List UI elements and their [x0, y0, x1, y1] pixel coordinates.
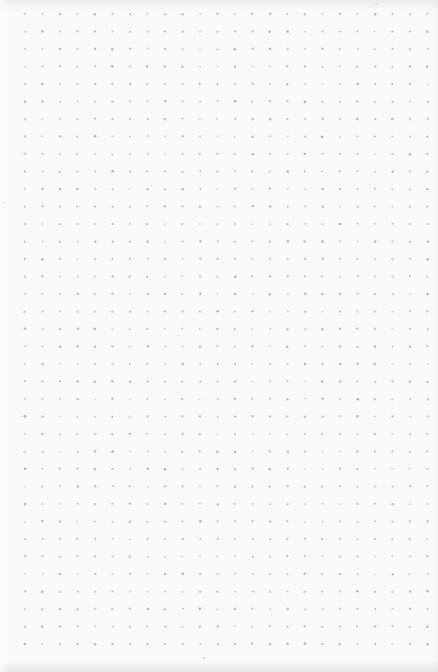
- grid-dot: [234, 538, 236, 540]
- grid-dot: [216, 328, 218, 330]
- grid-dot: [356, 486, 358, 488]
- grid-dot: [251, 415, 253, 417]
- grid-dot: [112, 206, 114, 208]
- grid-dot: [426, 433, 428, 435]
- grid-dot: [392, 573, 394, 575]
- grid-dot: [357, 48, 359, 50]
- grid-dot: [427, 48, 429, 50]
- grid-dot: [269, 573, 271, 575]
- grid-dot: [217, 503, 219, 505]
- grid-dot: [374, 398, 377, 401]
- grid-dot: [356, 468, 358, 470]
- grid-dot: [147, 538, 149, 540]
- grid-dot: [409, 485, 411, 487]
- grid-dot: [252, 48, 254, 50]
- grid-dot: [304, 136, 306, 138]
- grid-dot: [24, 503, 27, 506]
- grid-dot: [357, 381, 359, 383]
- grid-dot: [94, 398, 96, 400]
- grid-dot: [216, 556, 218, 558]
- grid-dot: [59, 153, 61, 155]
- grid-dot: [41, 590, 44, 593]
- grid-dot: [409, 416, 411, 418]
- grid-dot: [392, 311, 394, 313]
- grid-dot: [339, 118, 341, 120]
- grid-dot: [409, 608, 411, 610]
- grid-dot: [182, 363, 185, 366]
- grid-dot: [94, 608, 96, 610]
- grid-dot: [41, 503, 43, 505]
- grid-dot: [164, 153, 166, 155]
- grid-dot: [111, 416, 113, 418]
- grid-dot: [164, 100, 166, 102]
- grid-dot: [94, 503, 96, 505]
- grid-dot: [426, 293, 428, 295]
- grid-dot: [198, 82, 201, 85]
- grid-dot: [112, 555, 114, 557]
- grid-dot: [77, 451, 79, 453]
- grid-dot: [129, 556, 132, 559]
- grid-dot: [234, 520, 236, 522]
- grid-dot: [111, 13, 113, 15]
- grid-dot: [199, 31, 201, 33]
- grid-dot: [322, 223, 324, 225]
- grid-dot: [427, 101, 429, 103]
- grid-dot: [93, 328, 96, 331]
- grid-dot: [41, 520, 43, 522]
- grid-dot: [76, 485, 79, 488]
- grid-dot: [112, 241, 114, 243]
- grid-dot: [146, 328, 148, 330]
- grid-dot: [24, 118, 26, 120]
- grid-dot: [427, 13, 429, 15]
- grid-dot: [357, 346, 359, 348]
- grid-dot: [392, 293, 394, 295]
- grid-dot: [391, 83, 393, 85]
- grid-dot: [94, 538, 96, 540]
- grid-dot: [391, 398, 393, 400]
- grid-dot: [77, 625, 80, 628]
- grid-dot: [181, 275, 183, 277]
- grid-dot: [41, 293, 43, 295]
- grid-dot: [304, 223, 306, 225]
- grid-dot: [59, 328, 61, 330]
- grid-dot: [234, 153, 236, 155]
- grid-dot: [426, 381, 428, 383]
- grid-dot: [304, 608, 306, 610]
- grid-dot: [217, 538, 219, 540]
- grid-dot: [251, 240, 253, 242]
- grid-dot: [339, 398, 341, 400]
- grid-dot: [94, 363, 96, 365]
- grid-dot: [111, 380, 113, 382]
- grid-dot: [76, 83, 78, 85]
- grid-dot: [164, 416, 166, 418]
- grid-dot: [339, 363, 341, 365]
- grid-dot: [147, 48, 149, 50]
- grid-dot: [94, 206, 96, 208]
- grid-dot: [129, 206, 131, 208]
- grid-dot: [252, 450, 254, 452]
- grid-dot: [426, 276, 428, 278]
- grid-dot: [94, 293, 96, 295]
- grid-dot: [164, 363, 166, 365]
- grid-dot: [59, 416, 61, 418]
- grid-dot: [304, 450, 306, 452]
- grid-dot: [374, 433, 376, 435]
- grid-dot: [182, 30, 184, 32]
- grid-dot: [252, 223, 254, 225]
- grid-dot: [24, 13, 26, 15]
- grid-dot: [304, 521, 306, 523]
- grid-dot: [286, 555, 288, 557]
- grid-dot: [321, 276, 323, 278]
- grid-dot: [129, 48, 131, 50]
- grid-dot: [339, 292, 342, 295]
- grid-dot: [339, 153, 341, 155]
- grid-dot: [216, 468, 218, 470]
- grid-dot: [94, 555, 96, 557]
- grid-dot: [24, 276, 26, 278]
- grid-dot: [182, 83, 184, 85]
- grid-dot: [59, 503, 61, 505]
- grid-dot: [41, 608, 43, 610]
- grid-dot: [24, 170, 26, 172]
- grid-dot: [409, 643, 411, 645]
- grid-dot: [216, 608, 218, 610]
